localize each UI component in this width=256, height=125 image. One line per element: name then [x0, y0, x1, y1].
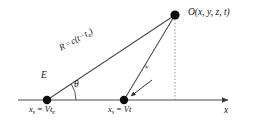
theta-angle-label: θ: [74, 80, 79, 90]
source-current-point-marker: [120, 96, 128, 104]
emission-point-label: E: [41, 71, 47, 81]
current-source-ray-line: [124, 15, 175, 100]
xs-rhs-subscript-emission: e: [52, 109, 55, 115]
xs-rhs-current: = Vt: [116, 104, 131, 114]
retarded-ray-line: [47, 15, 175, 100]
source-emission-position-label: xs = Vte: [29, 105, 55, 115]
source-current-position-label: xs = Vt: [108, 105, 131, 115]
observer-point-marker: [170, 10, 179, 19]
emission-point-marker: [43, 96, 51, 104]
diagram-canvas: O(x, y, z, t) R = c(t−te) E θ xs = Vte x…: [0, 0, 256, 125]
x-axis-label: x: [224, 106, 228, 116]
xs-rhs-emission: = Vt: [37, 104, 52, 114]
observer-point-label: O(x, y, z, t): [188, 8, 230, 18]
